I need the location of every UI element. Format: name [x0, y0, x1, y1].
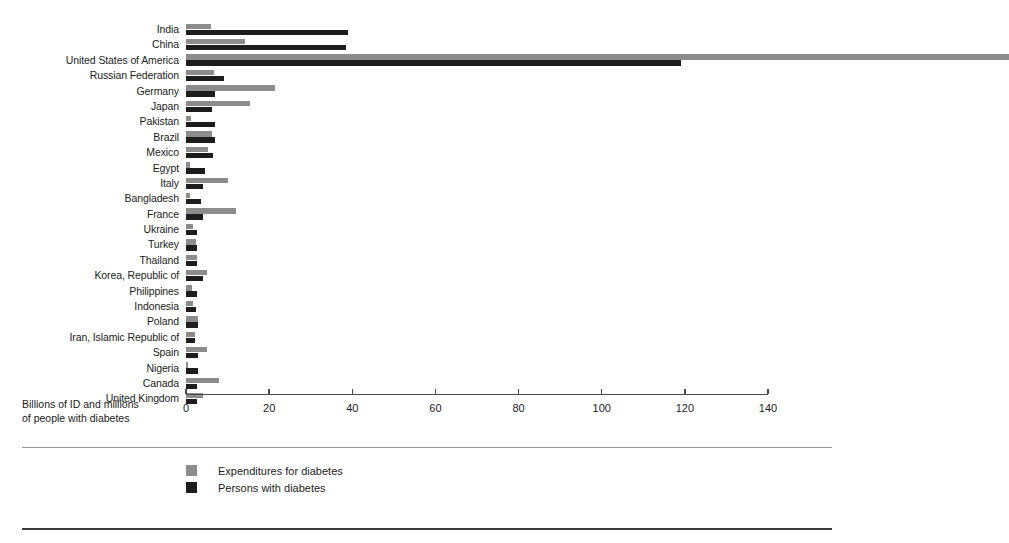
chart-row: Ukraine: [0, 222, 855, 237]
bar-group: [186, 238, 855, 252]
category-label: Spain: [0, 345, 179, 360]
bar-persons: [186, 60, 681, 65]
category-label: Thailand: [0, 253, 179, 268]
chart-row: Nigeria: [0, 361, 855, 376]
x-axis-tick-label: 100: [593, 402, 611, 414]
x-axis-tick-label: 140: [759, 402, 777, 414]
x-axis: 020406080100120140: [186, 394, 768, 395]
bar-group: [186, 346, 855, 360]
bar-group: [186, 223, 855, 237]
bar-expenditures: [186, 239, 196, 244]
bar-persons: [186, 276, 203, 281]
legend-label-expenditures: Expenditures for diabetes: [218, 465, 343, 477]
bar-persons: [186, 107, 212, 112]
bar-group: [186, 192, 855, 206]
bar-persons: [186, 291, 197, 296]
category-label: France: [0, 207, 179, 222]
bar-persons: [186, 230, 197, 235]
bar-expenditures: [186, 178, 228, 183]
category-label: Mexico: [0, 145, 179, 160]
bar-expenditures: [186, 285, 192, 290]
category-label: Japan: [0, 99, 179, 114]
category-label: Egypt: [0, 161, 179, 176]
category-label: United States of America: [0, 53, 179, 68]
bar-expenditures: [186, 24, 211, 29]
bar-persons: [186, 368, 198, 373]
category-label: Russian Federation: [0, 68, 179, 83]
bar-persons: [186, 353, 198, 358]
bar-persons: [186, 184, 203, 189]
chart-legend: Expenditures for diabetesPersons with di…: [186, 462, 343, 496]
x-axis-tick-label: 20: [263, 402, 275, 414]
chart-row: Italy: [0, 176, 855, 191]
bar-persons: [186, 307, 196, 312]
chart-row: Indonesia: [0, 299, 855, 314]
chart-row: Canada: [0, 376, 855, 391]
category-label: Nigeria: [0, 361, 179, 376]
chart-row: United States of America: [0, 53, 855, 68]
bar-persons: [186, 214, 203, 219]
chart-row: Turkey: [0, 237, 855, 252]
category-label: Germany: [0, 84, 179, 99]
bar-persons: [186, 322, 198, 327]
chart-row: Korea, Republic of: [0, 268, 855, 283]
bar-group: [186, 284, 855, 298]
bar-group: [186, 99, 855, 113]
bar-persons: [186, 245, 197, 250]
bar-group: [186, 69, 855, 83]
legend-item[interactable]: Expenditures for diabetes: [186, 462, 343, 479]
bar-expenditures: [186, 101, 250, 106]
category-label: Italy: [0, 176, 179, 191]
legend-label-persons: Persons with diabetes: [218, 482, 326, 494]
bar-group: [186, 361, 855, 375]
bar-expenditures: [186, 193, 190, 198]
x-axis-tick: [185, 389, 186, 394]
x-axis-tick-label: 0: [183, 402, 189, 414]
category-label: Korea, Republic of: [0, 268, 179, 283]
bar-expenditures: [186, 39, 245, 44]
bar-persons: [186, 45, 346, 50]
bar-expenditures: [186, 301, 193, 306]
chart-row: Japan: [0, 99, 855, 114]
chart-row: Pakistan: [0, 114, 855, 129]
bar-persons: [186, 384, 197, 389]
bar-persons: [186, 338, 195, 343]
category-label: Iran, Islamic Republic of: [0, 330, 179, 345]
bar-group: [186, 161, 855, 175]
chart-row: Philippines: [0, 284, 855, 299]
bar-persons: [186, 261, 197, 266]
bar-group: [186, 269, 855, 283]
legend-item[interactable]: Persons with diabetes: [186, 479, 343, 496]
bar-group: [186, 376, 855, 390]
x-axis-tick: [435, 389, 436, 394]
category-label: China: [0, 37, 179, 52]
x-axis-title-line-2: of people with diabetes: [22, 412, 182, 426]
x-axis-tick: [352, 389, 353, 394]
x-axis-tick-label: 40: [346, 402, 358, 414]
x-axis-tick: [268, 389, 269, 394]
chart-row: Bangladesh: [0, 191, 855, 206]
divider-top: [22, 447, 832, 448]
bar-group: [186, 207, 855, 221]
x-axis-title-line-1: Billions of ID and millions: [22, 398, 182, 412]
legend-swatch-expenditures: [186, 465, 197, 476]
category-label: India: [0, 22, 179, 37]
chart-row: Poland: [0, 314, 855, 329]
bar-expenditures: [186, 255, 197, 260]
chart-row: India: [0, 22, 855, 37]
bar-expenditures: [186, 378, 219, 383]
bar-expenditures: [186, 362, 188, 367]
category-label: Indonesia: [0, 299, 179, 314]
chart-row: Mexico: [0, 145, 855, 160]
bar-group: [186, 300, 855, 314]
chart-row: Spain: [0, 345, 855, 360]
chart-row: China: [0, 37, 855, 52]
category-label: Pakistan: [0, 114, 179, 129]
legend-swatch-persons: [186, 482, 197, 493]
x-axis-tick: [518, 389, 519, 394]
chart-row: Germany: [0, 84, 855, 99]
bar-persons: [186, 199, 201, 204]
bar-expenditures: [186, 224, 193, 229]
chart-row: Iran, Islamic Republic of: [0, 330, 855, 345]
